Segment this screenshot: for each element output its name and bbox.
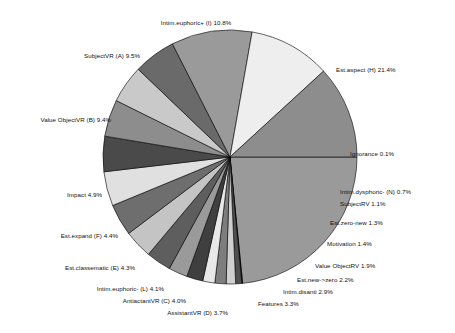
slice-label-intim-dysphoric-n: Intim.dysphoric- (N) 0.7% (340, 188, 411, 196)
slice-label-motivation: Motivation 1.4% (327, 240, 372, 248)
slice-label-features: Features 3.3% (258, 300, 299, 308)
slice-label-assistantvr-d: AssistantVR (D) 3.7% (167, 309, 228, 317)
slice-label-value-objectvr-b: Value ObjectVR (B) 9.4% (40, 116, 111, 124)
slice-label-est-aspect-h: Est.aspect (H) 21.4% (336, 66, 395, 74)
slice-label-intim-disanti: Intim.disanti 2.9% (283, 288, 333, 296)
slice-label-intim-euphoric-minus-l: Intim.euphoric- (L) 4.1% (97, 285, 164, 293)
slice-label-subjectvr-a: SubjectVR (A) 9.5% (84, 52, 140, 60)
pie-chart-figure: Intim.euphoric+ (I) 10.8% SubjectVR (A) … (0, 0, 455, 333)
slice-label-intim-euphoric-plus: Intim.euphoric+ (I) 10.8% (161, 19, 232, 27)
slice-label-est-classematic-e: Est.classematic (E) 4.3% (65, 264, 135, 272)
slice-label-ignorance: Ignorance 0.1% (350, 150, 394, 158)
slice-label-impact: Impact 4.9% (67, 191, 102, 199)
slice-label-est-expand-f: Est.expand (F) 4.4% (61, 232, 118, 240)
slice-label-est-zero-new: Est.zero-new 1.3% (330, 219, 383, 227)
slice-label-subjectrv: SubjectRV 1.1% (340, 200, 386, 208)
pie-slice-group (103, 30, 357, 284)
slice-label-value-objectrv: Value ObjectRV 1.9% (315, 262, 375, 270)
slice-label-est-new-zero: Est.new->zero 2.2% (297, 276, 353, 284)
slice-label-antiactantvr-c: AntiactantVR (C) 4.0% (123, 297, 186, 305)
pie-chart-canvas (0, 0, 455, 333)
